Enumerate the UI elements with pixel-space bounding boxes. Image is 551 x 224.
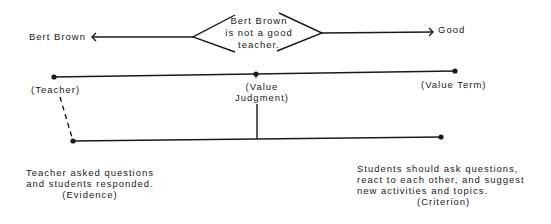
dashed-connector [60, 97, 73, 141]
claim-line-1: Bert Brown [218, 15, 300, 27]
node-criterion [438, 134, 443, 139]
subject-label: Bert Brown [29, 31, 86, 42]
predicate-arrow-line [322, 32, 433, 33]
criterion-line-3: new activities and topics. [357, 185, 547, 196]
criterion-tag: (Criterion) [357, 196, 547, 207]
teacher-label: (Teacher) [31, 84, 80, 95]
node-teacher [51, 74, 56, 79]
evidence-line-1: Teacher asked questions [18, 167, 162, 178]
value-judgment-label: (Value Judgment) [232, 81, 292, 103]
claim-line-3: teacher. [218, 39, 300, 51]
evidence-block: Teacher asked questions and students res… [18, 167, 162, 200]
criterion-line-2: react to each other, and suggest [357, 174, 547, 185]
criterion-block: Students should ask questions, react to … [357, 163, 547, 207]
claim-text: Bert Brown is not a good teacher. [218, 15, 300, 51]
node-evidence [70, 138, 75, 143]
claim-line-2: is not a good [218, 27, 300, 39]
evidence-line-2: and students responded. [18, 178, 162, 189]
node-value-term [452, 68, 457, 73]
predicate-label: Good [438, 24, 465, 35]
evidence-tag: (Evidence) [18, 189, 162, 200]
value-term-label: (Value Term) [421, 79, 487, 90]
criterion-line-1: Students should ask questions, [357, 163, 547, 174]
argument-diagram: Bert Brown Bert Brown is not a good teac… [0, 0, 551, 224]
